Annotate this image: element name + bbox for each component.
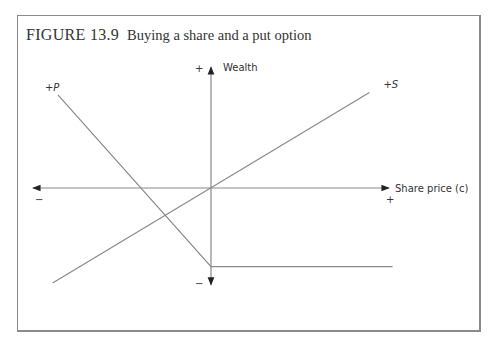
payoff-chart: +S+P Share price (c) Wealth − + + − bbox=[0, 0, 497, 351]
y-axis-label: Wealth bbox=[223, 62, 258, 73]
y-axis-positive-sign: + bbox=[195, 63, 203, 74]
series-label-share: +S bbox=[383, 79, 398, 90]
y-axis-negative-sign: − bbox=[195, 278, 203, 289]
series-line-put bbox=[58, 95, 393, 267]
x-axis-positive-sign: + bbox=[386, 194, 394, 205]
series-label-put: +P bbox=[45, 82, 60, 93]
x-axis-negative-sign: − bbox=[35, 194, 43, 205]
x-axis-label: Share price (c) bbox=[395, 183, 469, 194]
series-layer: +S+P bbox=[45, 79, 399, 283]
